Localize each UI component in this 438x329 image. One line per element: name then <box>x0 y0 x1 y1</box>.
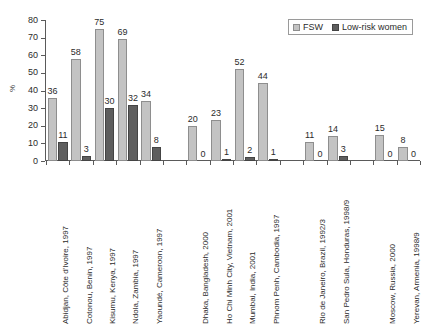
x-axis-tick-mark <box>186 161 187 165</box>
legend-label-fsw: FSW <box>303 22 323 32</box>
y-axis-tick-label: 40 <box>20 86 38 95</box>
bar-value-label: 69 <box>114 28 131 37</box>
x-axis-category-label: Ho Chi Minh City, Vietnam, 2001 <box>225 209 234 324</box>
bar-low-risk-women <box>152 147 161 161</box>
y-axis-tick-label: 60 <box>20 51 38 60</box>
y-axis-tick-label: 70 <box>20 33 38 42</box>
light-gray-swatch-icon <box>293 24 300 31</box>
y-axis-tick-label: 80 <box>20 16 38 25</box>
bar-value-label: 23 <box>207 109 224 118</box>
bar-value-label: 52 <box>231 58 248 67</box>
x-axis-category-label: Ndola, Zambia, 1997 <box>131 250 140 324</box>
bar-value-label: 11 <box>54 131 71 140</box>
bar-low-risk-women <box>105 108 114 161</box>
bar-value-label: 30 <box>101 97 118 106</box>
legend-item-low-risk-women: Low-risk women <box>332 22 407 32</box>
bar-fsw <box>141 101 150 161</box>
x-axis-category-label: Dhaka, Bangladesh, 2000 <box>201 232 210 324</box>
x-axis-category-labels: Abidjan, Côte d'Ivoire, 1997Cotonou, Ben… <box>0 166 438 329</box>
bar-value-label: 0 <box>194 150 211 159</box>
x-axis-category-label: San Pedro Sula, Honduras, 1998/9 <box>342 200 351 324</box>
y-axis-tick-label: 20 <box>20 121 38 130</box>
x-axis-category-label: Yerevan, Armenia, 1998/9 <box>412 232 421 324</box>
x-axis-tick-mark <box>327 161 328 165</box>
x-axis-tick-mark <box>140 161 141 165</box>
x-axis-tick-mark <box>163 161 164 165</box>
x-axis-category-label: Moscow, Russia, 2000 <box>388 244 397 324</box>
legend-item-fsw: FSW <box>293 22 323 32</box>
x-axis-tick-mark <box>46 161 47 165</box>
x-axis-category-label: Yaoundé, Cameroon, 1997 <box>155 229 164 324</box>
bar-value-label: 20 <box>184 115 201 124</box>
legend-label-low-risk-women: Low-risk women <box>342 22 407 32</box>
bar-fsw <box>95 29 104 161</box>
x-axis-category-label: Mumbai, India, 2001 <box>248 252 257 325</box>
x-axis-tick-mark <box>280 161 281 165</box>
x-axis-category-label: Cotonou, Benin, 1997 <box>85 247 94 324</box>
y-axis-tick-label: 50 <box>20 68 38 77</box>
bar-value-label: 0 <box>311 150 328 159</box>
bar-value-label: 0 <box>381 150 398 159</box>
bar-value-label: 11 <box>301 131 318 140</box>
x-axis-tick-mark <box>93 161 94 165</box>
x-axis-tick-mark <box>69 161 70 165</box>
y-axis-tick-label: 30 <box>20 104 38 113</box>
bar-value-label: 15 <box>371 124 388 133</box>
bar-value-label: 34 <box>137 90 154 99</box>
x-axis-tick-mark <box>210 161 211 165</box>
bar-value-label: 1 <box>218 148 235 157</box>
x-axis-tick-mark <box>233 161 234 165</box>
bar-chart: % 80706050403020100 36115837530693234820… <box>0 0 438 329</box>
x-axis-category-label: Rio de Janeiro, Brazil, 1992/3 <box>318 219 327 324</box>
x-axis-tick-mark <box>420 161 421 165</box>
y-axis-tick-label: 10 <box>20 139 38 148</box>
x-axis-tick-mark <box>116 161 117 165</box>
x-axis-category-label: Phnom Penh, Cambodia, 1997 <box>272 215 281 324</box>
bar-value-label: 44 <box>254 72 271 81</box>
bar-value-label: 3 <box>78 145 95 154</box>
bar-value-label: 8 <box>394 136 411 145</box>
x-axis-category-label: Abidjan, Côte d'Ivoire, 1997 <box>61 226 70 324</box>
bar-value-label: 2 <box>241 146 258 155</box>
bar-value-label: 1 <box>265 148 282 157</box>
x-axis-tick-mark <box>350 161 351 165</box>
bar-value-label: 75 <box>91 18 108 27</box>
x-axis-tick-mark <box>256 161 257 165</box>
bar-low-risk-women <box>58 142 67 161</box>
bar-value-label: 8 <box>148 136 165 145</box>
bar-value-label: 3 <box>335 145 352 154</box>
bar-value-label: 14 <box>324 125 341 134</box>
x-axis-tick-mark <box>303 161 304 165</box>
bar-value-label: 36 <box>44 87 61 96</box>
x-axis-tick-mark <box>373 161 374 165</box>
chart-legend: FSW Low-risk women <box>288 19 413 35</box>
bar-fsw <box>48 98 57 161</box>
bar-low-risk-women <box>128 105 137 161</box>
x-axis-category-label: Kisumu, Kenya, 1997 <box>108 248 117 324</box>
plot-area: 3611583753069323482002315224411101431508… <box>46 20 420 161</box>
bar-value-label: 0 <box>405 150 422 159</box>
x-axis-tick-mark <box>397 161 398 165</box>
bar-value-label: 58 <box>67 48 84 57</box>
dark-gray-swatch-icon <box>332 24 339 31</box>
